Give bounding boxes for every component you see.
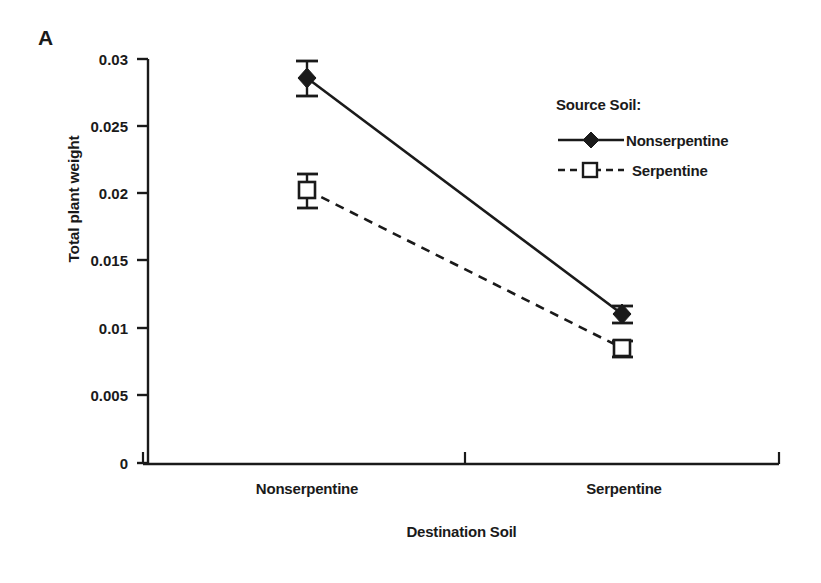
legend-label-serpentine: Serpentine (626, 162, 708, 179)
figure-panel-a: A Total plant weight 0.03 0.025 0.02 0.0… (0, 0, 821, 583)
legend-key-solid-diamond (556, 130, 626, 150)
plot-area (0, 0, 821, 583)
legend-entry-serpentine: Serpentine (556, 155, 728, 185)
marker-open-square (299, 182, 315, 198)
legend-label-nonserpentine: Nonserpentine (626, 132, 728, 149)
marker-filled-diamond (298, 68, 316, 88)
legend-key-dashed-square (556, 160, 626, 180)
legend: Source Soil: Nonserpentine Serpentine (556, 96, 728, 185)
legend-title: Source Soil: (556, 96, 728, 113)
series-line-serpentine (307, 190, 622, 348)
marker-open-square (614, 340, 630, 356)
legend-entry-nonserpentine: Nonserpentine (556, 125, 728, 155)
